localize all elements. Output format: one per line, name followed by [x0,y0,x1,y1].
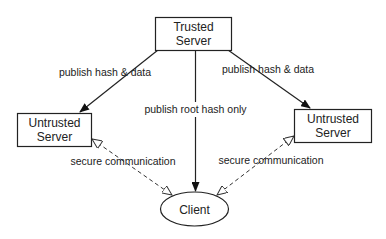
untrusted-left-label-line1: Untrusted [28,116,80,130]
trusted-server-label-line2: Server [176,34,211,48]
untrusted-right-label-line2: Server [315,126,350,140]
architecture-diagram: publish hash & data publish hash & data … [0,0,386,239]
node-untrusted-server-left: Untrusted Server [18,114,92,147]
edge-label-secure-left: secure communication [70,155,175,167]
edge-label-publish-right: publish hash & data [222,63,314,75]
trusted-server-label-line1: Trusted [173,20,213,34]
node-trusted-server: Trusted Server [156,18,232,51]
node-untrusted-server-right: Untrusted Server [295,110,372,143]
node-client: Client [161,192,229,226]
edge-publish-right: publish hash & data [222,50,314,108]
edge-label-publish-root: publish root hash only [144,103,247,115]
edge-label-publish-left: publish hash & data [59,66,151,78]
untrusted-left-label-line2: Server [37,130,72,144]
edge-secure-right: secure communication [217,136,324,195]
untrusted-right-label-line1: Untrusted [307,112,359,126]
edge-label-secure-right: secure communication [218,154,323,166]
edge-publish-left: publish hash & data [59,50,158,112]
edge-secure-left: secure communication [70,139,175,195]
client-label: Client [179,203,210,217]
